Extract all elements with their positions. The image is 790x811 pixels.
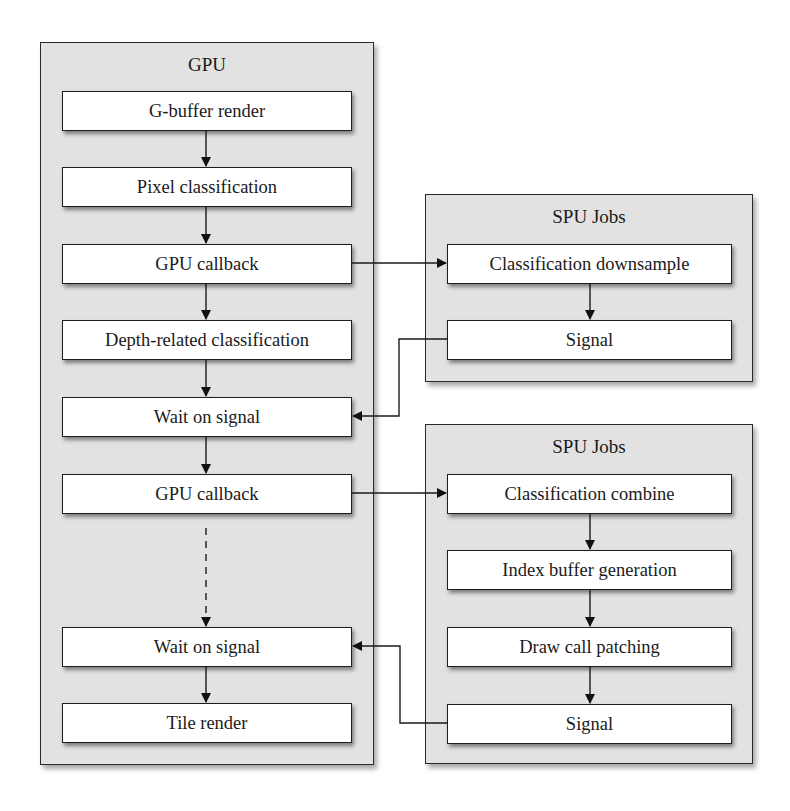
step-index-buffer-generation: Index buffer generation <box>447 550 732 590</box>
step-spu-signal-1: Signal <box>447 320 732 360</box>
spu-jobs-panel-1-title: SPU Jobs <box>426 206 752 228</box>
step-pixel-classification: Pixel classification <box>62 167 352 207</box>
step-classification-downsample: Classification downsample <box>447 244 732 284</box>
step-gpu-callback-2: GPU callback <box>62 474 352 514</box>
gpu-panel-title: GPU <box>41 54 373 76</box>
step-wait-on-signal-1: Wait on signal <box>62 397 352 437</box>
step-spu-signal-2: Signal <box>447 704 732 744</box>
step-tile-render: Tile render <box>62 703 352 743</box>
spu-jobs-panel-2-title: SPU Jobs <box>426 436 752 458</box>
step-classification-combine: Classification combine <box>447 474 732 514</box>
step-draw-call-patching: Draw call patching <box>447 627 732 667</box>
step-wait-on-signal-2: Wait on signal <box>62 627 352 667</box>
step-gbuffer-render: G-buffer render <box>62 91 352 131</box>
step-depth-related-classification: Depth-related classification <box>62 320 352 360</box>
step-gpu-callback-1: GPU callback <box>62 244 352 284</box>
